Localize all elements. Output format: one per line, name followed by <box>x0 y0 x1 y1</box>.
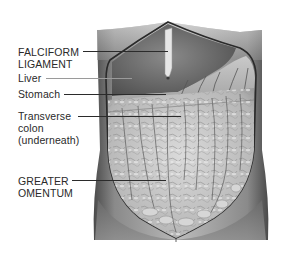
leader-line-transverse-colon <box>78 116 181 117</box>
label-falciform-ligament-line1: FALCIFORM <box>18 46 79 58</box>
label-greater-omentum-line1: GREATER <box>18 175 69 187</box>
leader-line-falciform <box>83 51 168 52</box>
leader-line-liver <box>46 78 132 79</box>
leader-line-greater-omentum <box>72 180 166 181</box>
label-stomach: Stomach <box>18 88 60 100</box>
label-greater-omentum-line2: OMENTUM <box>18 187 73 199</box>
leader-line-stomach <box>64 94 166 95</box>
label-transverse-colon-line2: colon <box>18 122 44 134</box>
label-falciform-ligament-line2: LIGAMENT <box>18 58 72 70</box>
label-liver: Liver <box>18 72 41 84</box>
label-transverse-colon-line1: Transverse <box>18 110 71 122</box>
falciform-ligament-shape <box>165 28 172 78</box>
anatomy-diagram: FALCIFORM LIGAMENT Liver Stomach Transve… <box>0 0 292 267</box>
label-transverse-colon-line3: (underneath) <box>18 134 79 146</box>
